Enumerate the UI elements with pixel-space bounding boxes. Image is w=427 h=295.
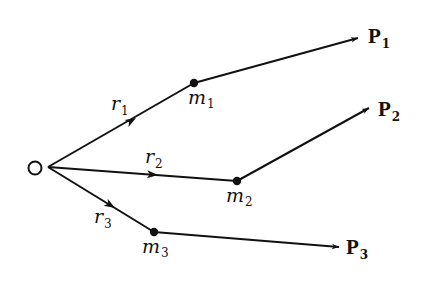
momentum-vector-p2 <box>237 108 369 181</box>
label-m3: m3 <box>142 235 169 260</box>
label-p3: P3 <box>346 235 368 262</box>
origin-circle <box>29 162 42 175</box>
label-m1: m1 <box>188 86 215 111</box>
label-r2: r2 <box>145 145 163 171</box>
label-r1: r1 <box>111 92 129 118</box>
diagram-canvas: r1 r2 r3 m1 m2 m3 P1 P2 P3 <box>0 0 427 295</box>
position-vector-r1 <box>48 83 194 167</box>
label-r3: r3 <box>94 205 112 231</box>
label-p2: P2 <box>378 97 400 124</box>
label-m2: m2 <box>226 184 253 209</box>
position-vector-r2 <box>48 167 237 181</box>
label-p1: P1 <box>368 24 390 51</box>
momentum-vector-p3 <box>154 232 339 247</box>
vector-diagram: r1 r2 r3 m1 m2 m3 P1 P2 P3 <box>0 0 427 295</box>
momentum-vector-p1 <box>194 38 358 83</box>
arrowhead-r3-icon <box>104 199 118 212</box>
